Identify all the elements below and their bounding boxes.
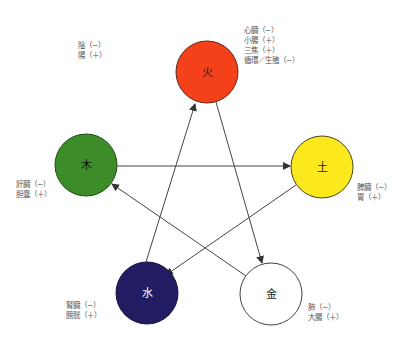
earth-organ-spleen: 脾臓（−） xyxy=(357,183,391,193)
earth-organ-stomach: 胃（＋） xyxy=(357,193,391,203)
wood-organ-liver: 肝臓（−） xyxy=(16,180,51,190)
water-symbol: 水 xyxy=(142,287,153,300)
fire-organs-label: 心臓（−） 小腸（＋） 三焦（＋） 循環／生殖（−） xyxy=(244,26,299,66)
legend-yin: 陰（−） xyxy=(78,41,106,51)
water-organ-bladder: 膀胱（＋） xyxy=(66,311,101,321)
metal-organs-label: 肺（−） 大腸（＋） xyxy=(308,303,343,323)
element-earth: 土 xyxy=(291,136,353,198)
fire-symbol: 火 xyxy=(202,66,213,79)
arrows-group xyxy=(112,102,296,276)
arrow-metal-to-wood xyxy=(112,184,246,276)
yin-yang-legend: 陰（−） 陽（＋） xyxy=(78,41,106,61)
legend-yang: 陽（＋） xyxy=(78,51,106,61)
element-metal: 金 xyxy=(240,263,302,325)
water-organs-label: 腎臓（−） 膀胱（＋） xyxy=(66,301,101,321)
water-organ-kidney: 腎臓（−） xyxy=(66,301,101,311)
earth-symbol: 土 xyxy=(317,161,328,174)
element-fire: 火 xyxy=(176,41,238,103)
metal-organ-large-intestine: 大腸（＋） xyxy=(308,313,343,323)
fire-organ-circulation-sex: 循環／生殖（−） xyxy=(244,56,299,66)
element-water: 水 xyxy=(116,262,178,324)
five-elements-diagram: 火 土 金 水 木 xyxy=(0,0,402,341)
element-wood: 木 xyxy=(55,134,117,196)
fire-organ-heart: 心臓（−） xyxy=(244,26,299,36)
fire-organ-small-intestine: 小腸（＋） xyxy=(244,36,299,46)
arrow-earth-to-water xyxy=(166,185,296,275)
wood-organs-label: 肝臓（−） 胆嚢（＋） xyxy=(16,180,51,200)
metal-organ-lung: 肺（−） xyxy=(308,303,343,313)
fire-organ-triple-burner: 三焦（＋） xyxy=(244,46,299,56)
wood-organ-gallbladder: 胆嚢（＋） xyxy=(16,190,51,200)
wood-symbol: 木 xyxy=(81,159,92,172)
arrow-fire-to-metal xyxy=(216,102,262,263)
earth-organs-label: 脾臓（−） 胃（＋） xyxy=(357,183,391,203)
arrow-water-to-fire xyxy=(146,104,195,262)
metal-symbol: 金 xyxy=(266,287,277,301)
